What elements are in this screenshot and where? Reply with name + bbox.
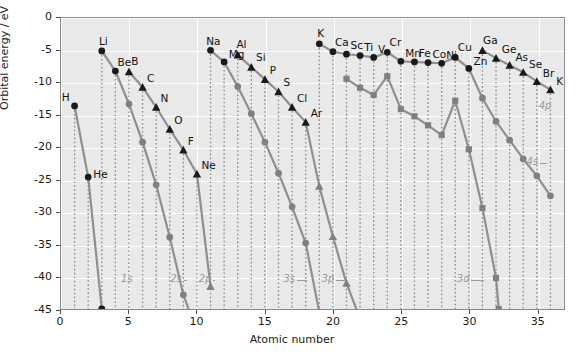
marker-square [439, 132, 445, 138]
element-label: Se [529, 59, 542, 70]
orbital-label: 3d [457, 274, 470, 284]
element-label: Ge [502, 44, 517, 55]
marker-circle [302, 240, 309, 247]
element-label: Fe [419, 48, 431, 59]
y-tick-label: -10 [6, 75, 52, 88]
orbital-label-leader [213, 280, 215, 281]
marker-circle [98, 48, 105, 55]
marker-circle [357, 52, 364, 59]
element-label: F [188, 136, 194, 147]
marker-circle [438, 60, 445, 67]
marker-circle [234, 83, 241, 90]
marker-triangle [125, 68, 133, 76]
marker-square [384, 73, 390, 79]
element-label: Kr [556, 76, 565, 87]
marker-square [398, 106, 404, 112]
marker-circle [248, 110, 255, 117]
element-label: O [174, 115, 182, 126]
marker-circle [112, 68, 119, 75]
series-line [346, 76, 498, 309]
orbital-label: 1s [121, 274, 133, 284]
x-tick-mark [538, 310, 539, 314]
element-label: As [515, 52, 528, 63]
x-tick-mark [401, 310, 402, 314]
element-label: Al [236, 39, 246, 50]
x-tick-mark [333, 310, 334, 314]
marker-circle [533, 172, 540, 179]
marker-circle [547, 192, 554, 199]
marker-square [466, 146, 472, 152]
orbital-label-leader [471, 280, 484, 281]
marker-square [479, 205, 485, 211]
x-tick-mark [196, 310, 197, 314]
y-tick-label: -30 [6, 205, 52, 218]
marker-square [425, 122, 431, 128]
element-label: Zn [473, 56, 487, 67]
marker-triangle [478, 46, 486, 54]
x-tick-mark [128, 310, 129, 314]
marker-circle [370, 54, 377, 61]
y-tick-label: -5 [6, 43, 52, 56]
marker-square [357, 85, 363, 91]
element-label: Cl [297, 93, 307, 104]
element-label: Br [543, 68, 555, 79]
x-tick-mark [60, 310, 61, 314]
element-label: P [270, 65, 276, 76]
marker-circle [411, 59, 418, 66]
orbital-label: 4p [539, 101, 552, 111]
element-label: Be [118, 57, 132, 68]
x-tick-label: 5 [108, 315, 148, 328]
series-line [319, 44, 550, 196]
element-label: K [317, 28, 324, 39]
marker-square [452, 98, 458, 104]
marker-circle [275, 170, 282, 177]
orbital-label-leader [297, 280, 306, 281]
element-label: Cu [458, 42, 472, 53]
element-label: Ar [311, 108, 323, 119]
x-tick-label: 20 [313, 315, 353, 328]
marker-circle [166, 234, 173, 241]
marker-circle [153, 181, 160, 188]
orbital-label-leader [184, 280, 187, 281]
marker-circle [465, 65, 472, 72]
orbital-label: 2s [170, 274, 182, 284]
x-tick-mark [265, 310, 266, 314]
x-tick-label: 35 [518, 315, 558, 328]
x-axis-title: Atomic number [0, 333, 584, 346]
x-tick-mark [469, 310, 470, 314]
element-label: Ti [364, 42, 373, 53]
y-tick-label: -35 [6, 238, 52, 251]
y-tick-label: -15 [6, 108, 52, 121]
orbital-label: 4s [526, 157, 538, 167]
element-label: H [62, 92, 70, 103]
marker-circle [262, 139, 269, 146]
marker-circle [316, 40, 323, 47]
orbital-label-leader [540, 163, 546, 164]
marker-square [343, 76, 349, 82]
x-tick-label: 15 [245, 315, 285, 328]
marker-square [371, 92, 377, 98]
element-label: Si [256, 52, 266, 63]
element-label: N [161, 93, 169, 104]
marker-square [493, 275, 499, 281]
element-label: Mg [229, 49, 245, 60]
y-tick-label: 0 [6, 10, 52, 23]
marker-circle [180, 291, 187, 298]
marker-circle [221, 59, 228, 66]
y-tick-label: -40 [6, 270, 52, 283]
element-label: C [147, 73, 154, 84]
element-label: Cr [390, 37, 402, 48]
element-label: B [131, 56, 138, 67]
marker-triangle [329, 232, 337, 240]
orbital-label: 3p [322, 274, 335, 284]
marker-square [496, 306, 502, 310]
marker-circle [343, 51, 350, 58]
marker-circle [316, 309, 323, 310]
x-tick-label: 0 [40, 315, 80, 328]
y-tick-label: -20 [6, 140, 52, 153]
marker-circle [71, 103, 78, 110]
marker-circle [126, 101, 133, 108]
element-label: He [93, 169, 107, 180]
x-tick-label: 30 [449, 315, 489, 328]
marker-circle [98, 306, 105, 310]
